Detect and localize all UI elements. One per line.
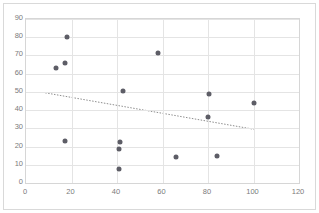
x-axis-tick-label: 0 [10, 188, 40, 196]
scatter-chart-figure: 0102030405060708090 020406080100120 [0, 0, 319, 213]
data-point [215, 153, 220, 158]
data-point [251, 100, 256, 105]
x-axis-tick-label: 100 [238, 188, 268, 196]
data-point [206, 115, 211, 120]
data-point [118, 140, 123, 145]
y-axis-tick-label: 90 [1, 14, 23, 22]
x-axis-tick-labels: 020406080100120 [25, 188, 300, 200]
y-axis-tick-label: 30 [1, 123, 23, 131]
plot-area [25, 18, 300, 184]
gridline-vertical [72, 19, 73, 183]
x-axis-tick-label: 20 [56, 188, 86, 196]
data-point [117, 167, 122, 172]
y-axis-tick-label: 10 [1, 160, 23, 168]
gridline-vertical [117, 19, 118, 183]
y-axis-tick-label: 40 [1, 105, 23, 113]
y-axis-tick-label: 60 [1, 69, 23, 77]
data-point [62, 60, 67, 65]
x-axis-tick-label: 80 [192, 188, 222, 196]
x-axis-tick-label: 40 [101, 188, 131, 196]
y-axis-tick-labels: 0102030405060708090 [0, 18, 23, 184]
trendline-segment [45, 93, 256, 130]
gridline-vertical [163, 19, 164, 183]
data-point [62, 139, 67, 144]
data-point [120, 88, 125, 93]
x-axis-tick-label: 120 [283, 188, 313, 196]
data-point [64, 35, 69, 40]
y-axis-tick-label: 80 [1, 32, 23, 40]
x-axis-tick-label: 60 [147, 188, 177, 196]
y-axis-tick-label: 20 [1, 142, 23, 150]
data-point [174, 155, 179, 160]
gridline-vertical [208, 19, 209, 183]
y-axis-tick-label: 50 [1, 87, 23, 95]
data-point [207, 91, 212, 96]
y-axis-tick-label: 0 [1, 178, 23, 186]
data-point [53, 66, 58, 71]
data-point [155, 50, 160, 55]
y-axis-tick-label: 70 [1, 50, 23, 58]
data-point [117, 147, 122, 152]
